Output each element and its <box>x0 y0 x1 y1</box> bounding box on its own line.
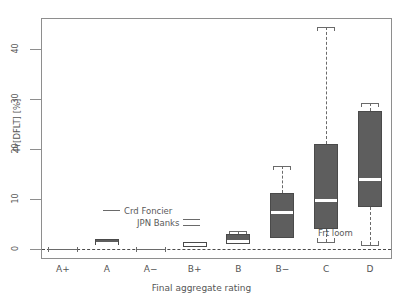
legend-label-jpn-banks: JPN Banks <box>137 218 179 228</box>
lower-whisker <box>370 207 371 245</box>
upper-whisker-cap <box>361 103 379 104</box>
whisker-cap-tick <box>378 103 379 107</box>
legend-item-jpn-banks: JPN Banks <box>137 217 200 228</box>
box-iqr <box>358 111 382 207</box>
upper-whisker <box>370 103 371 111</box>
boxplot-D <box>0 0 403 300</box>
double-line-marker-icon <box>183 219 200 226</box>
legend-item-crd-foncier: Crd Foncier <box>103 205 172 216</box>
single-line-marker-icon <box>103 210 120 211</box>
whisker-cap-tick <box>361 241 362 245</box>
annotation-frt-loom: Frt loom <box>318 228 353 238</box>
median-line <box>359 178 381 181</box>
boxplot-figure: Pr[DFLT] [%] 010203040 A+AA−B+BB−CD Fina… <box>0 0 403 300</box>
whisker-cap-tick <box>378 241 379 245</box>
whisker-cap-tick <box>361 103 362 107</box>
legend-label-crd-foncier: Crd Foncier <box>124 206 172 216</box>
lower-whisker-cap <box>361 245 379 246</box>
